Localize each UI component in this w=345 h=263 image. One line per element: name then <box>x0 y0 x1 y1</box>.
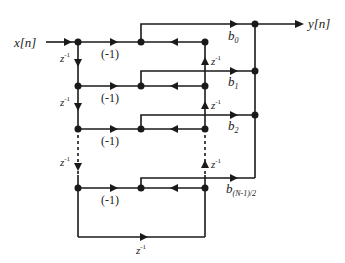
node <box>75 39 82 46</box>
arrow-icon <box>110 82 118 90</box>
arrow-left-icon <box>170 38 178 46</box>
node <box>252 68 259 75</box>
node <box>138 185 145 192</box>
arrow-left-icon <box>170 125 178 133</box>
arrow-up-icon <box>201 101 209 109</box>
node <box>138 126 145 133</box>
node <box>202 126 209 133</box>
delay-label: z-1 <box>210 157 222 170</box>
arrow-icon <box>64 38 72 46</box>
input-label: x[n] <box>13 35 36 50</box>
delay-label: z-1 <box>59 155 71 168</box>
arrow-icon <box>295 20 304 28</box>
coef-label-bN: b(N-1)/2 <box>226 181 256 198</box>
arrow-down-icon <box>74 59 82 67</box>
output-label: y[n] <box>306 16 330 31</box>
arrow-icon <box>110 184 118 192</box>
coef-label-b2: b2 <box>228 118 239 135</box>
gain-label: (-1) <box>101 134 119 148</box>
arrow-up-icon <box>201 160 209 168</box>
delay-label: z-1 <box>135 243 147 256</box>
node <box>138 39 145 46</box>
gain-label: (-1) <box>101 193 119 207</box>
delay-label: z-1 <box>210 98 222 111</box>
node <box>75 185 82 192</box>
node <box>75 83 82 90</box>
node <box>202 39 209 46</box>
coef-label-b0: b0 <box>228 28 239 45</box>
arrow-down-icon <box>74 103 82 111</box>
delay-label: z-1 <box>210 54 222 67</box>
signal-flow-diagram: x[n] z-1 z-1 z-1 (-1) (-1) (-1) (-1) z-1… <box>0 0 345 263</box>
arrow-icon <box>110 38 118 46</box>
node <box>75 126 82 133</box>
node <box>138 83 145 90</box>
arrow-up-icon <box>201 57 209 65</box>
delay-label: z-1 <box>59 95 71 108</box>
node <box>202 185 209 192</box>
flow-graph: x[n] z-1 z-1 z-1 (-1) (-1) (-1) (-1) z-1… <box>0 0 345 263</box>
node <box>202 83 209 90</box>
node <box>252 21 259 28</box>
arrow-icon <box>230 20 238 28</box>
coef-label-b1: b1 <box>228 74 239 91</box>
node <box>252 112 259 119</box>
delay-label: z-1 <box>59 51 71 64</box>
gain-label: (-1) <box>101 47 119 61</box>
gain-label: (-1) <box>101 91 119 105</box>
arrow-left-icon <box>170 184 178 192</box>
arrow-left-icon <box>170 82 178 90</box>
arrow-icon <box>140 233 148 241</box>
tap-bN <box>141 178 255 188</box>
arrow-down-icon <box>74 163 82 171</box>
arrow-icon <box>110 125 118 133</box>
